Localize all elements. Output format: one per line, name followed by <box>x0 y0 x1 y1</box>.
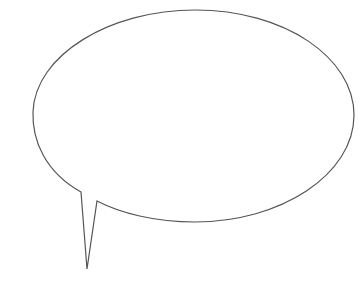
speech-bubble-canvas <box>0 0 360 288</box>
speech-bubble-icon <box>0 0 360 288</box>
